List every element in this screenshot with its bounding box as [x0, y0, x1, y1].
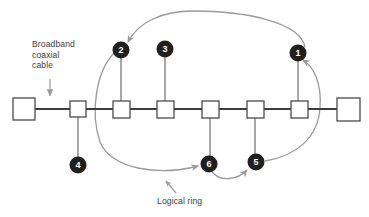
ring-node-3: 3 — [157, 41, 174, 58]
station-d-box — [202, 101, 219, 118]
terminator-right — [337, 98, 360, 121]
diagram-canvas: 1 2 3 4 5 6 — [0, 0, 369, 217]
ring-node-4: 4 — [70, 157, 87, 174]
ring-callout-arrow — [166, 181, 176, 193]
logical-ring-label: Logical ring — [157, 196, 202, 207]
ring-node-6-label: 6 — [206, 159, 211, 169]
ring-node-4-label: 4 — [75, 160, 80, 170]
terminator-left — [13, 98, 35, 120]
logical-ring-arcs — [95, 11, 320, 179]
cable-label-line3: cable — [32, 60, 53, 70]
ring-node-5-label: 5 — [253, 157, 258, 167]
station-f-box — [291, 101, 308, 118]
ring-arc-2-to-6 — [95, 53, 198, 171]
ring-node-markers: 1 2 3 4 5 6 — [70, 41, 307, 174]
ring-arc-6-to-5 — [212, 170, 247, 179]
ring-arc-1-to-2 — [128, 11, 305, 47]
station-c-box — [157, 101, 174, 118]
ring-node-1-label: 1 — [295, 48, 300, 58]
token-bus-diagram: 1 2 3 4 5 6 — [0, 0, 369, 217]
cable-label-line2: coaxial — [32, 50, 59, 60]
ring-node-5: 5 — [248, 154, 265, 171]
cable-label-line1: Broadband — [32, 39, 75, 49]
ring-node-3-label: 3 — [162, 44, 167, 54]
ring-node-1: 1 — [290, 45, 307, 62]
ring-node-6: 6 — [201, 156, 218, 173]
station-stubs — [78, 56, 298, 158]
broadband-coaxial-cable-label: Broadbandcoaxialcable — [32, 39, 75, 71]
station-a-box — [70, 101, 86, 117]
station-e-box — [247, 101, 264, 118]
ring-node-2: 2 — [113, 42, 130, 59]
ring-node-2-label: 2 — [118, 45, 123, 55]
station-b-box — [113, 101, 130, 118]
